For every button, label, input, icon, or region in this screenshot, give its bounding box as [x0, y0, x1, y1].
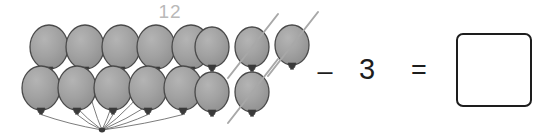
subtrahend-number: 3: [354, 54, 380, 84]
minus-operator: –: [310, 56, 340, 86]
worksheet-canvas: 12 – 3 =: [0, 0, 553, 133]
balloon-loose-bottom-0: [195, 72, 229, 117]
bunch-balloons-group: [22, 25, 210, 115]
balloon-bunch-bottom-3: [129, 66, 167, 115]
equals-operator: =: [404, 55, 434, 85]
balloon-string-5: [41, 115, 102, 131]
balloon-bunch-bottom-1: [58, 66, 96, 115]
answer-input-box[interactable]: [456, 33, 532, 107]
loose-balloons-group: [195, 25, 309, 117]
bunch-knot: [99, 128, 105, 133]
balloon-bunch-bottom-0: [22, 66, 60, 115]
group-count-label: 12: [148, 1, 192, 22]
balloon-loose-bottom-1: [235, 72, 269, 117]
strike-marks-group: [228, 12, 318, 123]
balloon-bunch-bottom-2: [94, 66, 132, 115]
balloon-loose-top-1: [235, 27, 269, 72]
balloon-loose-top-2: [275, 25, 309, 70]
